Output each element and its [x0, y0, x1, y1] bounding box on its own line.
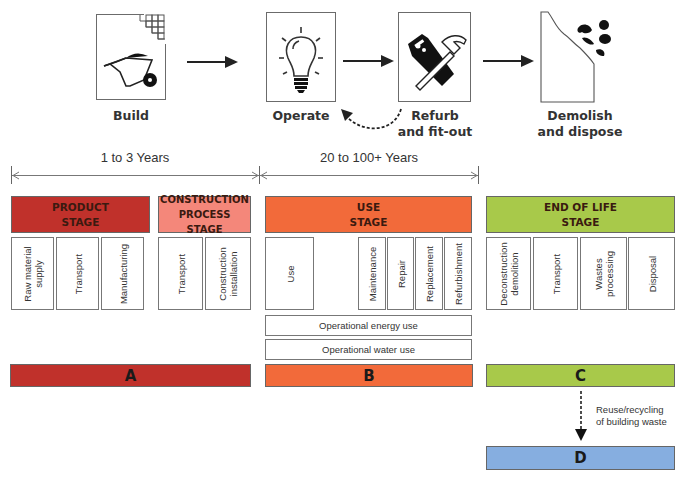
arrowhead-left-icon [12, 171, 20, 180]
operate-label: Operate [262, 108, 340, 124]
module-wastes-processing: Wastesprocessing [580, 237, 627, 310]
operate-icon-box [266, 12, 336, 102]
module-label: Transport [550, 253, 561, 293]
module-label: Disposal [646, 255, 657, 291]
demolish-label-line2: and dispose [525, 124, 635, 140]
use-stage-header: USESTAGE [265, 196, 472, 233]
module-label: Maintenance [367, 246, 378, 300]
product-stage-header: PRODUCTSTAGE [11, 196, 150, 233]
dashed-down-arrow-icon [574, 389, 588, 445]
arrow-right-icon [343, 55, 395, 67]
build-label: Build [96, 108, 166, 124]
end-of-life-stage-line2: STAGE [544, 215, 617, 230]
construction-stage-line2: PROCESS STAGE [159, 207, 250, 237]
module-refurbishment: Refurbishment [444, 237, 472, 310]
letter-bar-a: A [10, 364, 251, 387]
recycling-note: Reuse/recycling of building waste [596, 404, 685, 428]
recycling-note-line1: Reuse/recycling [596, 404, 685, 416]
module-manufacturing: Manufacturing [101, 237, 144, 310]
end-of-life-stage-line1: END OF LIFE [544, 200, 617, 215]
saw-hammer-icon [398, 12, 471, 102]
module-label: Transport [72, 253, 83, 293]
operational-water-use: Operational water use [265, 339, 472, 360]
module-label: Manufacturing [117, 243, 128, 303]
module-raw-material-supply: Raw materialsupply [11, 237, 54, 310]
module-construction-installation: Constructioninstallation [205, 237, 251, 310]
module-product-transport: Transport [56, 237, 99, 310]
module-label: Constructioninstallation [217, 247, 239, 300]
construction-stage-line1: CONSTRUCTION [159, 192, 250, 207]
demolish-label: Demolish and dispose [525, 108, 635, 140]
operational-energy-use: Operational energy use [265, 315, 472, 336]
module-replacement: Replacement [415, 237, 443, 310]
arrow-right-icon [187, 56, 239, 68]
module-label: Replacement [424, 246, 435, 302]
arrowhead-left-icon [260, 171, 268, 180]
arrow-right-icon [483, 55, 535, 67]
timespan-label-long: 20 to 100+ Years [260, 150, 478, 165]
module-label: Use [284, 265, 295, 282]
dashed-return-arrow-icon [335, 105, 405, 135]
refurb-icon-box [398, 12, 471, 102]
module-disposal: Disposal [628, 237, 675, 310]
demolish-label-line1: Demolish [525, 108, 635, 124]
product-stage-line2: STAGE [52, 215, 109, 230]
module-label: Raw materialsupply [22, 246, 44, 301]
module-deconstruction-demolition: Deconstructiondemolition [486, 237, 531, 310]
letter-bar-b: B [265, 364, 473, 387]
construction-process-stage-header: CONSTRUCTIONPROCESS STAGE [158, 196, 251, 233]
letter-bar-d: D [486, 446, 675, 470]
arrowhead-right-icon [251, 171, 259, 180]
module-maintenance: Maintenance [358, 237, 386, 310]
end-of-life-stage-header: END OF LIFESTAGE [486, 196, 675, 233]
lightbulb-icon [266, 12, 336, 102]
arrowhead-right-icon [470, 171, 478, 180]
timespan-label-short: 1 to 3 Years [11, 150, 259, 165]
use-stage-line2: STAGE [350, 215, 388, 230]
build-icon-box [96, 14, 166, 100]
wheelbarrow-icon [96, 14, 166, 100]
rubble-icon [538, 8, 618, 104]
module-label: Wastesprocessing [593, 251, 615, 297]
letter-bar-c: C [486, 364, 675, 387]
use-stage-line1: USE [350, 200, 388, 215]
recycling-note-line2: of building waste [596, 416, 685, 428]
product-stage-line1: PRODUCT [52, 200, 109, 215]
module-label: Repair [395, 260, 406, 288]
module-use: Use [265, 237, 314, 310]
module-label: Deconstructiondemolition [498, 242, 520, 305]
module-eol-transport: Transport [533, 237, 578, 310]
module-label: Transport [175, 253, 186, 293]
module-label: Refurbishment [453, 243, 464, 305]
module-construction-transport: Transport [158, 237, 203, 310]
module-repair: Repair [387, 237, 414, 310]
